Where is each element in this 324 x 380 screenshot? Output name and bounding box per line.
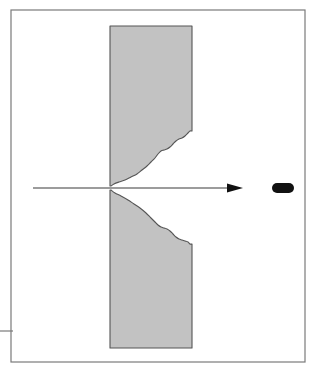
penetration-diagram [0, 0, 324, 380]
figure-canvas [0, 0, 324, 380]
projectile [272, 183, 294, 193]
